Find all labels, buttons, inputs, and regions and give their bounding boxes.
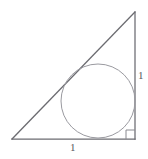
inscribed-circle — [61, 64, 135, 138]
height-length-label: 1 — [138, 70, 144, 81]
geometry-figure: 1 1 — [0, 0, 148, 159]
right-angle-marker — [126, 130, 135, 139]
base-length-label: 1 — [70, 142, 76, 153]
triangle-hypotenuse — [12, 12, 135, 139]
geometry-canvas — [0, 0, 148, 159]
